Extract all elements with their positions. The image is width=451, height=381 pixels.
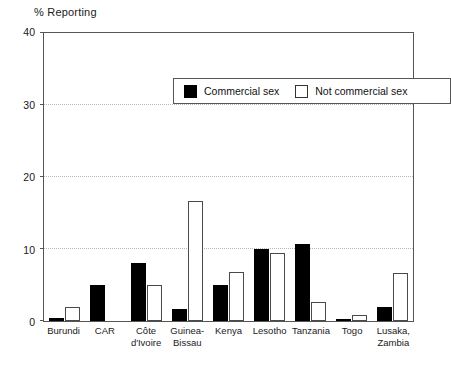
bar-group (249, 33, 290, 321)
bar-not-commercial-sex (270, 253, 285, 321)
bar-group (290, 33, 331, 321)
bar-not-commercial-sex (352, 315, 367, 321)
y-tick-label: 30 (5, 99, 35, 111)
bar-commercial-sex (49, 318, 64, 321)
x-tick-label: Lusaka, Zambia (373, 325, 414, 348)
y-tick-label: 20 (5, 171, 35, 183)
bar-commercial-sex (131, 263, 146, 321)
legend-label-commercial: Commercial sex (204, 85, 279, 97)
x-tick-label: Kenya (208, 325, 249, 348)
bar-commercial-sex (254, 249, 269, 321)
y-axis-title: % Reporting (34, 6, 97, 18)
y-tick-label: 10 (5, 244, 35, 256)
legend-swatch-commercial-icon (184, 85, 197, 98)
plot-area: Commercial sex Not commercial sex (43, 32, 414, 322)
x-tick-label: Guinea- Bissau (167, 325, 208, 348)
x-tick-label: Tanzania (290, 325, 331, 348)
chart-legend: Commercial sex Not commercial sex (173, 78, 451, 104)
x-tick-label: Togo (332, 325, 373, 348)
y-tick-label: 40 (5, 26, 35, 38)
bar-commercial-sex (172, 309, 187, 321)
y-tick-label: 0 (5, 316, 35, 328)
bar-group (372, 33, 413, 321)
bar-commercial-sex (377, 307, 392, 321)
bar-not-commercial-sex (311, 302, 326, 321)
legend-item-commercial-sex: Commercial sex (184, 85, 279, 98)
bar-commercial-sex (213, 285, 228, 321)
bar-not-commercial-sex (229, 272, 244, 321)
bar-group (331, 33, 372, 321)
bar-commercial-sex (90, 285, 105, 321)
legend-label-not-commercial: Not commercial sex (315, 85, 407, 97)
x-tick-label: Burundi (43, 325, 84, 348)
x-axis-labels: BurundiCARCôte d'IvoireGuinea- BissauKen… (43, 325, 414, 348)
bar-group (167, 33, 208, 321)
bar-not-commercial-sex (65, 307, 80, 321)
x-tick-label: CAR (84, 325, 125, 348)
bar-not-commercial-sex (188, 201, 203, 321)
bar-group (85, 33, 126, 321)
legend-swatch-not-commercial-icon (295, 85, 308, 98)
bar-group (208, 33, 249, 321)
bar-group (44, 33, 85, 321)
x-tick-label: Lesotho (249, 325, 290, 348)
bar-group (126, 33, 167, 321)
bar-commercial-sex (295, 244, 310, 321)
x-tick-label: Côte d'Ivoire (125, 325, 166, 348)
bar-not-commercial-sex (147, 285, 162, 321)
bar-commercial-sex (336, 319, 351, 321)
bar-not-commercial-sex (393, 273, 408, 321)
legend-item-not-commercial-sex: Not commercial sex (295, 85, 407, 98)
bar-groups (44, 33, 413, 321)
